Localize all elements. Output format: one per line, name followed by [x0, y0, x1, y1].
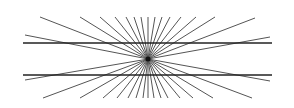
- ray-line: [103, 59, 148, 98]
- center-vanishing-point: [146, 57, 151, 62]
- hering-illusion-figure: [0, 0, 294, 108]
- ray-line: [25, 35, 148, 59]
